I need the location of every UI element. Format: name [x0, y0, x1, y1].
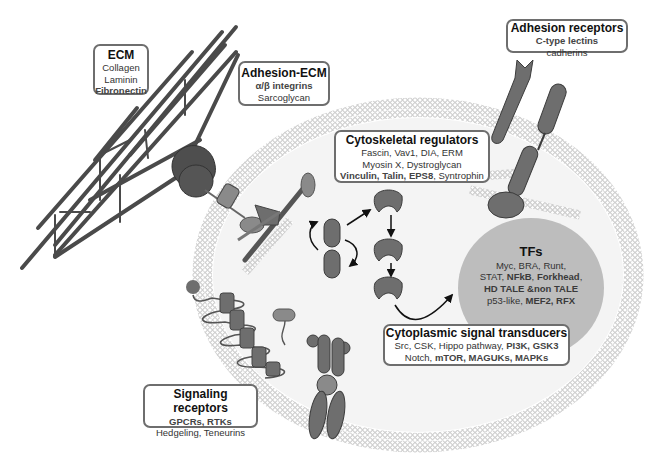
- tfs-mef2-rfx: MEF2, RFX: [525, 295, 575, 306]
- cst-plain-1: Src, CSK, Hippo pathway,: [394, 340, 506, 351]
- ecm-label: ECM Collagen Laminin Fibronectin: [93, 44, 149, 95]
- cytoplasmic-signal-transducers-line-1: Src, CSK, Hippo pathway, PI3K, GSK3: [385, 340, 568, 351]
- cytoplasmic-signal-transducers-line-2: Notch, mTOR, MAGUKs, MAPKs: [385, 352, 568, 363]
- adhesion-receptors-title: Adhesion receptors: [508, 21, 626, 35]
- adhesion-ecm-item-integrins: α/β integrins: [240, 80, 328, 91]
- signaling-receptors-title: Signaling receptors: [145, 387, 256, 416]
- cytoskeletal-regulators-line-2: Myosin X, Dystroglycan: [336, 159, 488, 170]
- tfs-sep-2: ,: [580, 271, 583, 282]
- cst-bold-2: mTOR, MAGUKs, MAPKs: [435, 352, 548, 363]
- adhesion-receptors-label: Adhesion receptors C-type lectins cadher…: [506, 19, 628, 53]
- adhesion-ecm-title: Adhesion-ECM: [240, 66, 328, 80]
- tfs-line-3: HD TALE &non TALE: [458, 283, 604, 295]
- cytoskeletal-regulators-title: Cytoskeletal regulators: [336, 133, 488, 147]
- cytoplasmic-signal-transducers-label: Cytoplasmic signal transducers Src, CSK,…: [383, 324, 570, 366]
- cytoskeletal-regulators-line-1: Fascin, Vav1, DIA, ERM: [336, 147, 488, 158]
- tfs-stat: STAT,: [480, 271, 507, 282]
- cst-plain-2: Notch,: [405, 352, 435, 363]
- tfs-forkhead: Forkhead: [537, 271, 580, 282]
- cytoskeletal-regulators-line-3: Vinculin, Talin, EPS8, Syntrophin: [336, 170, 488, 181]
- ecm-item-fibronectin: Fibronectin: [95, 85, 147, 96]
- adhesion-receptors-item-lectins: C-type lectins: [508, 35, 626, 46]
- tfs-line-2: STAT, NFkB, Forkhead,: [458, 271, 604, 283]
- cytoskeletal-regulators-bold-items: Vinculin, Talin, EPS8: [340, 170, 433, 181]
- ecm-item-laminin: Laminin: [95, 74, 147, 85]
- adhesion-receptors-item-cadherins: cadherins: [508, 47, 626, 58]
- tfs-p53: p53-like,: [487, 295, 526, 306]
- adhesion-ecm-item-sarcoglycan: Sarcoglycan: [240, 92, 328, 103]
- tfs-nfkb: NFkB: [507, 271, 532, 282]
- cytoskeletal-regulators-label: Cytoskeletal regulators Fascin, Vav1, DI…: [334, 130, 490, 183]
- tfs-line-1: Myc, BRA, Runt,: [458, 260, 604, 272]
- tfs-line-4: p53-like, MEF2, RFX: [458, 295, 604, 307]
- cytoplasmic-signal-transducers-title: Cytoplasmic signal transducers: [385, 326, 568, 340]
- tfs-title: TFs: [458, 244, 604, 260]
- signaling-receptors-label: Signaling receptors GPCRs, RTKs Hedgelin…: [143, 384, 258, 428]
- adhesion-ecm-label: Adhesion-ECM α/β integrins Sarcoglycan: [238, 61, 330, 106]
- signaling-receptors-line-2: Hedgeling, Teneurins: [145, 427, 256, 438]
- cst-bold-1: PI3K, GSK3: [506, 340, 558, 351]
- signaling-receptors-line-1: GPCRs, RTKs: [145, 416, 256, 427]
- cytoskeletal-regulators-plain-items: , Syntrophin: [433, 170, 484, 181]
- ecm-title: ECM: [95, 48, 147, 62]
- ecm-item-collagen: Collagen: [95, 62, 147, 73]
